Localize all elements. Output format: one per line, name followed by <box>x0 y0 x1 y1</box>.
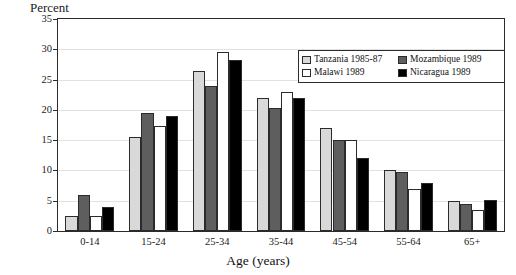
legend-entry: Malawi 1989 <box>302 67 398 78</box>
x-axis-title: Age (years) <box>0 253 516 269</box>
bar <box>333 140 345 231</box>
y-tick-label: 5 <box>14 196 52 206</box>
legend-label: Malawi 1989 <box>314 67 364 78</box>
bar <box>357 158 369 231</box>
bar <box>78 195 90 231</box>
bar <box>205 86 217 231</box>
y-tick-label: 10 <box>14 165 52 175</box>
bar <box>166 116 178 231</box>
bar <box>281 92 293 231</box>
bar <box>217 52 229 231</box>
bar <box>460 204 472 231</box>
bar-group <box>122 19 186 231</box>
bar <box>129 137 141 231</box>
bar-group <box>58 19 122 231</box>
bar <box>90 216 102 231</box>
y-tick-label: 35 <box>14 14 52 24</box>
x-tick-label: 45-54 <box>313 236 377 248</box>
bar-chart-figure: Percent 05101520253035 0-1415-2425-3435-… <box>0 0 516 275</box>
legend-entry: Tanzania 1985-87 <box>302 54 398 65</box>
legend-entry: Nicaragua 1989 <box>398 67 502 78</box>
bar <box>472 210 484 231</box>
bar <box>65 216 77 231</box>
bar <box>193 71 205 232</box>
bar <box>229 60 241 231</box>
x-tick-label: 65+ <box>440 236 504 248</box>
y-tick-label: 20 <box>14 105 52 115</box>
bar <box>320 128 332 231</box>
bar <box>345 140 357 231</box>
legend-label: Tanzania 1985-87 <box>314 54 382 65</box>
x-tick-label: 35-44 <box>249 236 313 248</box>
x-tick-label: 0-14 <box>58 236 122 248</box>
legend-entry: Mozambique 1989 <box>398 54 502 65</box>
bar <box>102 207 114 231</box>
bar <box>421 183 433 231</box>
bar <box>408 189 420 231</box>
bar <box>293 98 305 231</box>
legend-label: Mozambique 1989 <box>410 54 482 65</box>
x-tick-label: 55-64 <box>377 236 441 248</box>
y-tick-label: 25 <box>14 75 52 85</box>
x-axis-tick-labels: 0-1415-2425-3435-4445-5455-6465+ <box>57 236 505 252</box>
y-tick-label: 30 <box>14 44 52 54</box>
y-tick-label: 0 <box>14 226 52 236</box>
bar <box>257 98 269 231</box>
x-tick-label: 15-24 <box>122 236 186 248</box>
bar <box>141 113 153 231</box>
legend-label: Nicaragua 1989 <box>410 67 470 78</box>
x-tick-label: 25-34 <box>185 236 249 248</box>
chart-legend: Tanzania 1985-87Mozambique 1989Malawi 19… <box>298 50 505 83</box>
legend-swatch <box>302 69 311 77</box>
bar <box>484 200 496 231</box>
bar <box>396 172 408 231</box>
y-tick-label: 15 <box>14 135 52 145</box>
legend-swatch <box>398 56 407 64</box>
bar <box>154 126 166 231</box>
bar <box>448 201 460 231</box>
bar <box>269 108 281 231</box>
legend-swatch <box>302 56 311 64</box>
bar-group <box>185 19 249 231</box>
bar <box>384 170 396 231</box>
legend-swatch <box>398 69 407 77</box>
